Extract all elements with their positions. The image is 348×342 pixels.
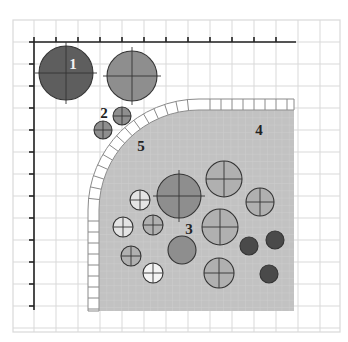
circle-2b xyxy=(94,121,112,139)
label-4: 4 xyxy=(255,122,263,138)
label-1: 1 xyxy=(69,56,77,72)
circle-dark-c xyxy=(260,265,278,283)
circle-right xyxy=(246,188,274,216)
circle-medium-mid xyxy=(168,236,196,264)
circle-2a xyxy=(113,107,131,125)
label-3: 3 xyxy=(185,221,193,237)
diagram-canvas: 12345 xyxy=(0,0,348,342)
circle-dark-b xyxy=(266,231,284,249)
circle-small-mid xyxy=(143,215,163,235)
circle-upper-right xyxy=(206,161,242,197)
circle-bottom-right xyxy=(204,258,234,288)
circle-large-grey-top xyxy=(103,47,161,105)
circle-1-large-dark xyxy=(35,42,97,104)
circle-left-bottom xyxy=(121,246,141,266)
circle-center-right xyxy=(202,209,238,245)
circle-white-bottom xyxy=(143,263,163,283)
label-5: 5 xyxy=(137,138,145,154)
circle-pale-left xyxy=(113,217,133,237)
label-2: 2 xyxy=(100,105,108,121)
circle-dark-a xyxy=(240,237,258,255)
circle-pale-top xyxy=(130,190,150,210)
